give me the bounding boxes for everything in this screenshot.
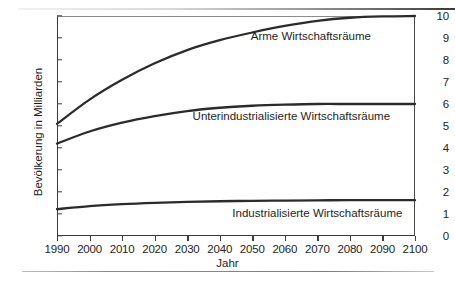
x-tick-mark: [350, 236, 351, 241]
y-tick-mark: [57, 125, 62, 126]
y-tick-mark: [57, 15, 62, 16]
y-tick-label: 9: [443, 32, 449, 44]
x-tick-mark: [285, 236, 286, 241]
y-tick-mark: [57, 59, 62, 60]
x-tick-label: 1990: [45, 243, 70, 255]
x-tick-label: 2080: [338, 243, 363, 255]
x-tick-mark: [317, 236, 318, 241]
curve-label-0: Arme Wirtschaftsräume: [251, 30, 371, 42]
x-tick-mark: [382, 236, 383, 241]
y-tick-mark: [57, 147, 62, 148]
x-tick-label: 2060: [272, 243, 297, 255]
x-tick-label: 2040: [207, 243, 232, 255]
x-tick-label: 2010: [110, 243, 135, 255]
x-tick-mark: [122, 236, 123, 241]
y-tick-label: 8: [443, 54, 449, 66]
y-tick-mark: [57, 169, 62, 170]
y-tick-mark: [57, 103, 62, 104]
y-tick-label: 1: [443, 208, 449, 220]
y-tick-label: 10: [437, 10, 449, 22]
y-tick-label: 5: [443, 120, 449, 132]
x-tick-mark: [155, 236, 156, 241]
y-tick-label: 3: [443, 164, 449, 176]
x-tick-label: 2000: [77, 243, 102, 255]
y-tick-label: 0: [443, 230, 449, 242]
y-tick-label: 4: [443, 142, 449, 154]
x-tick-label: 2020: [142, 243, 167, 255]
y-tick-mark: [57, 81, 62, 82]
x-tick-mark: [90, 236, 91, 241]
bottom-divider-rule: [22, 271, 434, 272]
x-tick-label: 2070: [305, 243, 330, 255]
figure-container: Bevölkerung in Milliarden Jahr 012345678…: [0, 0, 455, 281]
x-tick-label: 2090: [370, 243, 395, 255]
x-tick-mark: [252, 236, 253, 241]
y-tick-label: 2: [443, 186, 449, 198]
x-tick-mark: [220, 236, 221, 241]
x-tick-label: 2100: [403, 243, 428, 255]
x-tick-label: 2050: [240, 243, 265, 255]
y-tick-mark: [57, 37, 62, 38]
y-tick-label: 7: [443, 76, 449, 88]
y-tick-label: 6: [443, 98, 449, 110]
x-tick-mark: [57, 236, 58, 241]
curve-label-2: Industrialisierte Wirtschaftsräume: [232, 207, 402, 219]
x-tick-mark: [415, 236, 416, 241]
x-tick-label: 2030: [175, 243, 200, 255]
y-tick-mark: [57, 191, 62, 192]
data-curves: [0, 0, 455, 281]
curve-label-1: Unterindustrialisierte Wirtschaftsräume: [193, 110, 390, 122]
y-tick-mark: [57, 213, 62, 214]
x-tick-mark: [187, 236, 188, 241]
